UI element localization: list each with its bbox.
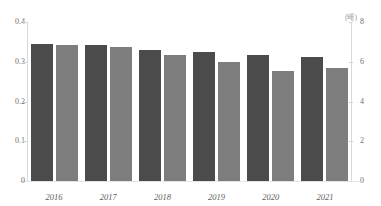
bar-light-series-2021 (326, 68, 348, 181)
bar-dark-series-2021 (301, 57, 323, 181)
axis-baseline (20, 181, 360, 182)
bar-chart: (배) 00.10.20.30.4 02468 2016201720182019… (0, 0, 381, 206)
bar-light-series-2019 (218, 62, 240, 181)
left-axis-tick-label: 0 (5, 176, 25, 185)
right-axis-tick-mark (349, 141, 353, 142)
left-axis-tick-label: 0.4 (5, 17, 25, 26)
bar-dark-series-2016 (31, 44, 53, 181)
left-axis-tick-mark (23, 102, 27, 103)
right-axis-tick-mark (349, 102, 353, 103)
bar-light-series-2020 (272, 71, 294, 181)
x-axis-label-2020: 2020 (246, 192, 296, 202)
right-axis-tick-label: 0 (360, 176, 380, 185)
x-axis-label-2021: 2021 (300, 192, 350, 202)
bar-light-series-2017 (110, 47, 132, 181)
right-axis-tick-mark (349, 62, 353, 63)
chart-title (0, 0, 381, 3)
bar-dark-series-2020 (247, 55, 269, 181)
right-axis-tick-label: 2 (360, 136, 380, 145)
left-axis-tick-mark (23, 141, 27, 142)
bar-dark-series-2019 (193, 52, 215, 181)
bar-light-series-2016 (56, 45, 78, 181)
right-axis-tick-label: 8 (360, 17, 380, 26)
bar-dark-series-2017 (85, 45, 107, 181)
right-axis-tick-mark (349, 22, 353, 23)
left-axis-tick-label: 0.1 (5, 136, 25, 145)
x-axis-label-2016: 2016 (29, 192, 79, 202)
left-axis-tick-mark (23, 22, 27, 23)
left-axis-tick-label: 0.3 (5, 57, 25, 66)
left-axis-tick-label: 0.2 (5, 97, 25, 106)
right-axis-unit-label: (배) (345, 11, 357, 22)
right-axis-tick-label: 6 (360, 57, 380, 66)
right-axis-tick-label: 4 (360, 97, 380, 106)
bar-light-series-2018 (164, 55, 186, 181)
bar-dark-series-2018 (139, 50, 161, 181)
left-axis-tick-mark (23, 62, 27, 63)
x-axis-label-2017: 2017 (83, 192, 133, 202)
x-axis-label-2018: 2018 (137, 192, 187, 202)
x-axis-label-2019: 2019 (192, 192, 242, 202)
